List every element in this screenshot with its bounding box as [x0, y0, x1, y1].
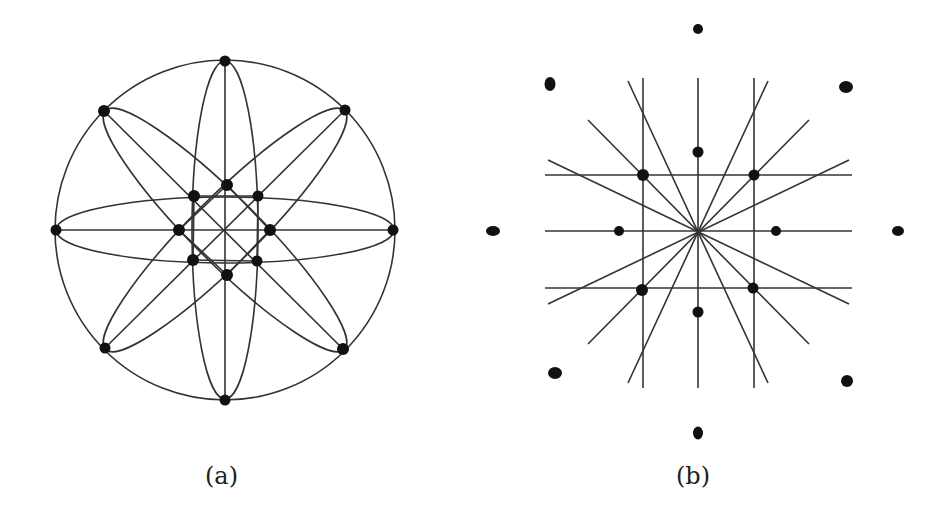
node [340, 105, 351, 116]
node [221, 269, 233, 281]
node [188, 190, 200, 202]
node [264, 224, 276, 236]
outer-node [693, 427, 703, 440]
outer-node [548, 367, 562, 379]
node [221, 179, 233, 191]
panel-b-graph [545, 78, 852, 388]
node [636, 284, 648, 296]
node [253, 191, 264, 202]
outer-node [486, 226, 500, 236]
node [51, 225, 62, 236]
figure-canvas [0, 0, 942, 516]
node [100, 343, 111, 354]
node [637, 169, 649, 181]
node [693, 307, 704, 318]
node [748, 283, 759, 294]
node [388, 225, 399, 236]
chord-line [227, 230, 270, 275]
panel-b-caption: (b) [676, 462, 710, 490]
outer-node [693, 24, 703, 34]
node [693, 147, 704, 158]
outer-node [545, 77, 556, 91]
outer-node [841, 375, 853, 387]
node [220, 395, 231, 406]
node [187, 254, 199, 266]
outer-node [839, 81, 853, 93]
node [749, 170, 760, 181]
node [614, 226, 624, 236]
node [337, 343, 349, 355]
outer-node [892, 226, 904, 236]
node [173, 224, 185, 236]
chord-line [193, 260, 257, 261]
node [220, 56, 231, 67]
figure: (a) (b) [0, 0, 942, 516]
node [252, 256, 263, 267]
chord-line [257, 196, 258, 261]
chord-line [193, 196, 194, 260]
node [771, 226, 781, 236]
panel-a-caption: (a) [205, 462, 238, 490]
node [98, 105, 110, 117]
